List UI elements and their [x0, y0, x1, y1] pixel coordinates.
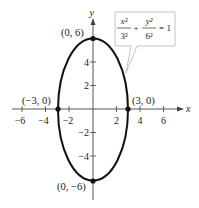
ellipse-diagram: x y −6 −4 −2 2 4 6 4 2 −2 −4 (0, — [0, 0, 199, 208]
y-axis-label: y — [89, 7, 95, 18]
covertex-point — [125, 106, 130, 111]
point-label: (0, 6) — [61, 27, 84, 39]
x-tick-label: −2 — [63, 115, 74, 126]
x-tick-label: −4 — [38, 115, 49, 126]
eq-num-y: y² — [145, 16, 153, 26]
point-label: (−3, 0) — [22, 95, 51, 107]
y-tick-label: 4 — [84, 57, 89, 68]
x-tick-label: 6 — [161, 115, 166, 126]
point-label: (0, −6) — [57, 181, 86, 193]
eq-den-y: 6² — [145, 31, 153, 41]
eq-den-x: 3² — [120, 31, 128, 41]
point-label: (3, 0) — [132, 95, 155, 107]
vertex-point — [90, 178, 95, 183]
y-tick-label: −4 — [78, 151, 89, 162]
x-axis-label: x — [185, 103, 191, 114]
eq-rhs: = 1 — [159, 23, 171, 33]
y-tick-label: −2 — [78, 127, 89, 138]
x-tick-label: 4 — [138, 115, 143, 126]
x-tick-label: −6 — [15, 115, 26, 126]
eq-num-x: x² — [120, 16, 128, 26]
x-tick-label: 2 — [114, 115, 119, 126]
covertex-point — [55, 106, 60, 111]
eq-plus: + — [133, 23, 138, 33]
y-tick-label: 2 — [84, 80, 89, 91]
x-axis-arrow-icon — [177, 107, 184, 112]
vertex-point — [90, 36, 95, 41]
y-axis-arrow-icon — [91, 18, 96, 25]
equation-callout: x² 3² + y² 6² = 1 — [115, 12, 175, 73]
